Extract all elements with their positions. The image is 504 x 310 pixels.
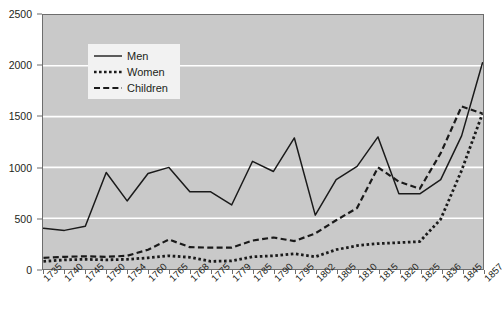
y-axis-tick-label: 2000 xyxy=(9,59,32,71)
y-axis-tick-label: 500 xyxy=(14,213,32,225)
legend-item-women: Women xyxy=(93,64,175,80)
y-axis-tick-label: 1500 xyxy=(9,110,32,122)
x-axis: 1735174017451750175417601765176817751779… xyxy=(42,270,484,310)
y-axis-tick-label: 0 xyxy=(26,264,32,276)
y-axis-tick-label: 1000 xyxy=(9,162,32,174)
solid-line-key xyxy=(93,51,123,61)
dotted-line-key xyxy=(93,67,123,77)
y-axis-tick-label: 2500 xyxy=(9,8,32,20)
y-axis: 05001000150020002500 xyxy=(0,0,42,284)
x-axis-tick-label: 1857 xyxy=(482,261,504,284)
dashed-line-key xyxy=(93,83,123,93)
legend-label-men: Men xyxy=(127,51,148,62)
legend-label-children: Children xyxy=(127,83,168,94)
legend-item-men: Men xyxy=(93,48,175,64)
legend-label-women: Women xyxy=(127,67,165,78)
chart-legend: Men Women Children xyxy=(88,44,180,99)
legend-item-children: Children xyxy=(93,80,175,96)
